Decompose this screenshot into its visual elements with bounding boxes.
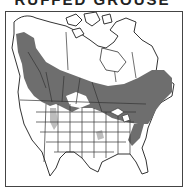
map-title: RUFFED GROUSE — [0, 0, 185, 8]
north-america-map — [6, 12, 182, 186]
range-map — [5, 11, 183, 187]
